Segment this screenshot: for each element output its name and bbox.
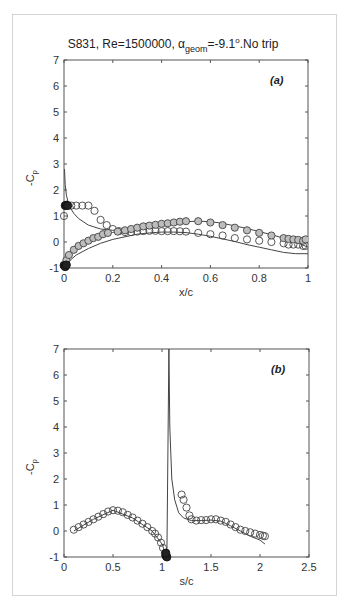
x-tick-label: 0.5 (105, 561, 120, 573)
data-marker (162, 549, 170, 557)
x-tick-label: 0 (61, 272, 67, 284)
y-tick-label: 1 (53, 499, 59, 511)
x-tick-label: 0 (61, 561, 67, 573)
y-tick-label: -1 (49, 551, 59, 563)
x-tick-label: 1 (305, 272, 311, 284)
x-axis-label: x/c (179, 286, 194, 298)
x-tick-label: 0.6 (203, 272, 218, 284)
figure-title: S831, Re=1500000, αgeom=-9.1o.No trip (68, 36, 279, 54)
figure-caption (40, 603, 310, 615)
data-marker (219, 222, 226, 229)
y-tick-label: 3 (53, 447, 59, 459)
plot-panel-b: 00.511.522.5-101234567s/c-Cp(b) (24, 343, 317, 587)
data-marker (62, 261, 70, 269)
x-tick-label: 0.8 (252, 272, 267, 284)
x-tick-label: 1 (159, 561, 165, 573)
y-tick-label: 7 (53, 343, 59, 355)
data-marker (268, 232, 275, 239)
figure-canvas: S831, Re=1500000, αgeom=-9.1o.No trip 00… (0, 0, 347, 615)
data-marker (256, 229, 263, 236)
y-tick-label: 0 (53, 236, 59, 248)
y-tick-label: 3 (53, 158, 59, 170)
data-marker (64, 202, 72, 210)
y-tick-label: 4 (53, 132, 59, 144)
data-marker (182, 218, 189, 225)
data-marker (104, 229, 111, 236)
y-tick-label: 6 (53, 80, 59, 92)
y-axis-label: -Cp (24, 458, 39, 475)
x-tick-label: 2.5 (301, 561, 316, 573)
plot-area (64, 349, 309, 557)
data-marker (114, 228, 121, 235)
data-marker (207, 219, 214, 226)
y-tick-label: 0 (53, 525, 59, 537)
panel-label: (b) (271, 363, 285, 375)
y-tick-label: -1 (49, 262, 59, 274)
plot-panel-a: 00.20.40.60.81-101234567x/c-Cp(a) (24, 54, 311, 298)
x-tick-label: 0.2 (105, 272, 120, 284)
data-marker (195, 218, 202, 225)
y-tick-label: 5 (53, 395, 59, 407)
y-tick-label: 2 (53, 473, 59, 485)
x-axis-label: s/c (179, 575, 194, 587)
x-tick-label: 0.4 (154, 272, 169, 284)
panel-label: (a) (270, 74, 284, 86)
y-tick-label: 5 (53, 106, 59, 118)
y-tick-label: 6 (53, 369, 59, 381)
y-axis-label: -Cp (24, 169, 39, 186)
y-tick-label: 4 (53, 421, 59, 433)
x-tick-label: 1.5 (203, 561, 218, 573)
x-tick-label: 2 (257, 561, 263, 573)
y-tick-label: 7 (53, 54, 59, 66)
y-tick-label: 1 (53, 210, 59, 222)
data-marker (231, 224, 238, 231)
y-tick-label: 2 (53, 184, 59, 196)
data-marker (243, 227, 250, 234)
